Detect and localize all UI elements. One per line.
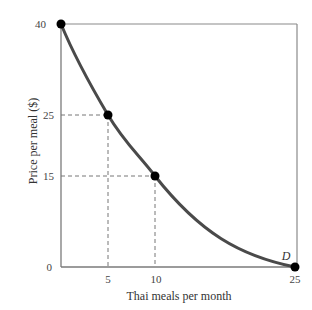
y-tick-0: 0 <box>47 261 53 273</box>
point-10-15 <box>151 172 160 181</box>
x-tick-25: 25 <box>290 273 302 285</box>
y-tick-25: 25 <box>43 109 55 121</box>
x-axis-label: Thai meals per month <box>127 289 232 303</box>
point-5-25 <box>104 111 113 120</box>
guide-lines <box>61 115 155 267</box>
x-tick-10: 10 <box>151 273 163 285</box>
point-25-0 <box>291 263 300 272</box>
point-0-40 <box>57 20 66 29</box>
demand-curve <box>61 24 295 267</box>
x-tick-5: 5 <box>105 273 111 285</box>
y-tick-15: 15 <box>43 170 55 182</box>
data-points <box>57 20 300 272</box>
demand-chart: D 40 25 15 0 5 10 25 Thai meals per mont… <box>0 0 312 310</box>
y-axis-label: Price per meal ($) <box>26 98 40 184</box>
x-tick-labels: 5 10 25 <box>105 273 301 285</box>
curve-label-d: D <box>281 249 291 263</box>
y-tick-40: 40 <box>35 18 47 30</box>
plot-frame <box>61 24 297 267</box>
